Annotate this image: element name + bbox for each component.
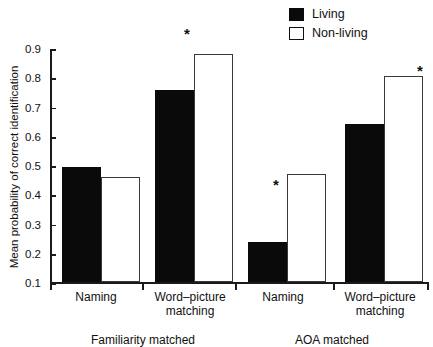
y-tick-mark	[50, 137, 56, 139]
x-tick-3	[333, 284, 335, 290]
x-tick-4	[427, 284, 429, 290]
y-tick-mark	[50, 108, 56, 110]
x-category-label-aoa-word-picture: Word–picture matching	[344, 290, 415, 318]
y-tick-label: 0.3	[25, 219, 41, 232]
legend-item-living: Living	[289, 5, 429, 24]
y-tick-label: 0.8	[25, 72, 41, 85]
legend-label-non-living: Non-living	[312, 27, 368, 40]
y-tick-mark	[50, 49, 56, 51]
x-tick-2	[235, 284, 237, 290]
bar-non-living-familiarity-word-picture	[194, 54, 233, 282]
y-tick-mark	[50, 225, 56, 227]
x-category-line2: matching	[344, 304, 415, 318]
y-tick-mark	[50, 254, 56, 256]
plot-area: Mean probability of correct identificati…	[50, 50, 429, 284]
significance-star-aoa-naming: *	[273, 177, 279, 192]
x-category-line1: Word–picture	[154, 290, 225, 304]
x-category-line1: Word–picture	[344, 290, 415, 304]
x-category-label-familiarity-naming: Naming	[75, 290, 116, 304]
y-tick-label: 0.6	[25, 131, 41, 144]
bar-living-aoa-naming	[248, 242, 287, 282]
legend-swatch-filled-square-icon	[289, 8, 304, 21]
y-tick-label: 0.5	[25, 160, 41, 173]
significance-star-aoa-word-picture: *	[417, 63, 423, 78]
y-tick-label: 0.1	[25, 277, 41, 290]
significance-star-familiarity-word-picture: *	[184, 26, 190, 41]
y-tick-mark	[50, 78, 56, 80]
x-category-line1: Naming	[75, 290, 116, 304]
chart-legend: Living Non-living	[289, 5, 429, 43]
y-tick-label: 0.4	[25, 189, 41, 202]
y-tick-label: 0.9	[25, 43, 41, 56]
x-axis-line	[50, 282, 429, 284]
x-tick-1	[142, 284, 144, 290]
legend-item-non-living: Non-living	[289, 24, 429, 43]
legend-label-living: Living	[312, 8, 345, 21]
x-group-label-familiarity-matched: Familiarity matched	[91, 333, 195, 347]
x-category-label-familiarity-word-picture: Word–picture matching	[154, 290, 225, 318]
x-category-label-aoa-naming: Naming	[262, 290, 303, 304]
bar-non-living-aoa-word-picture	[384, 76, 423, 282]
legend-swatch-open-square-icon	[289, 27, 304, 40]
y-tick-mark	[50, 195, 56, 197]
bar-non-living-aoa-naming	[287, 174, 326, 282]
x-group-label-aoa-matched: AOA matched	[295, 333, 369, 347]
y-axis-title: Mean probability of correct identificati…	[8, 66, 20, 269]
x-tick-0	[50, 284, 52, 290]
bar-living-familiarity-word-picture	[155, 90, 194, 282]
bar-living-familiarity-naming	[62, 167, 101, 283]
y-tick-mark	[50, 166, 56, 168]
bar-living-aoa-word-picture	[345, 124, 384, 282]
y-tick-label: 0.2	[25, 248, 41, 261]
y-tick-label: 0.7	[25, 102, 41, 115]
bar-non-living-familiarity-naming	[101, 177, 140, 282]
x-category-line1: Naming	[262, 290, 303, 304]
x-category-line2: matching	[154, 304, 225, 318]
